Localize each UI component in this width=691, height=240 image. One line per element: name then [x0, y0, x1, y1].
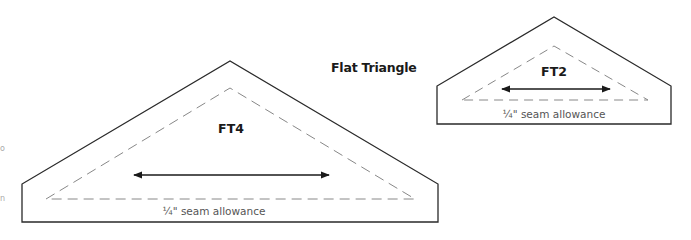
edge-fragment: n — [0, 194, 5, 203]
templates-canvas — [0, 0, 691, 240]
ft4-cut-line — [22, 61, 438, 222]
ft4-sew-line — [46, 88, 415, 199]
edge-fragment: o — [0, 144, 5, 153]
ft2-seam-label: ¼" seam allowance — [503, 108, 606, 120]
ft2-label: FT2 — [541, 64, 567, 79]
ft4-label: FT4 — [218, 121, 244, 136]
ft4-seam-label: ¼" seam allowance — [163, 205, 266, 217]
diagram-title: Flat Triangle — [331, 60, 417, 75]
ft4-template — [22, 61, 438, 222]
